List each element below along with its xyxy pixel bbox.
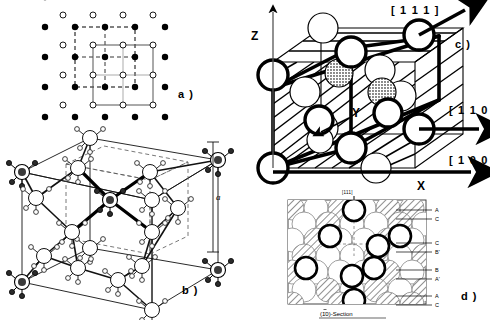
panel-d-tag: d ) (461, 290, 477, 302)
direction-label-110: [ 1 1 0 ] (449, 104, 490, 116)
panel-d-top-marker: [111] (342, 190, 353, 195)
panel-a-filled-atoms (42, 0, 168, 120)
layer-label-2: C (435, 240, 439, 246)
panel-c-svg: Z X Y [ 1 1 1 ] [ 1 1 0 ] [ 1 0 0 ] (243, 0, 490, 192)
figure-root: a ) (0, 0, 490, 320)
layer-label-4: B (435, 267, 439, 273)
panel-d-section-label: (1̈0)-Section (320, 311, 353, 317)
panel-b-inner-cell (66, 146, 188, 254)
panel-d-layer-labels: A C C B' B A' A C (435, 207, 440, 308)
panel-a-lattice-projection (30, 2, 230, 120)
layer-label-0: A (435, 207, 439, 213)
panel-d-110-section: [111] (286, 186, 490, 320)
y-axis-label: Y (352, 106, 360, 120)
panel-d-spheres (280, 196, 436, 316)
lattice-parameter-label: a (216, 192, 221, 202)
panel-b-svg: a (0, 120, 240, 320)
panel-d-svg: [111] (286, 186, 490, 320)
layer-label-1: C (435, 216, 439, 222)
panel-b-atoms (6, 127, 233, 320)
direction-label-100: [ 1 0 0 ] (449, 154, 490, 166)
layer-label-6: A (435, 293, 439, 299)
panel-b-unit-cell: a (0, 120, 240, 320)
z-axis-label: Z (251, 29, 258, 43)
direction-label-111: [ 1 1 1 ] (391, 4, 440, 16)
layer-label-3: B' (435, 249, 440, 255)
layer-label-5: A' (435, 276, 440, 282)
panel-c-tag: c ) (455, 38, 471, 50)
layer-label-7: C (435, 302, 439, 308)
panel-c-cubic-cell-directions: Z X Y [ 1 1 1 ] [ 1 1 0 ] [ 1 0 0 ] (243, 0, 490, 192)
panel-a-tag: a ) (178, 88, 194, 100)
panel-b-tag: b ) (182, 284, 198, 296)
panel-a-svg (30, 2, 230, 120)
